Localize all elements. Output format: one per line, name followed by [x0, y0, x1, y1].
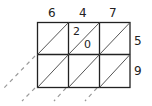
right-digit-1: 5: [134, 35, 142, 47]
lattice-grid: [0, 0, 152, 106]
top-digit-3: 7: [109, 7, 117, 19]
top-digit-2: 4: [79, 7, 87, 19]
right-digit-2: 9: [134, 65, 142, 77]
cell-tens-digit: 2: [73, 26, 80, 37]
cell-ones-digit: 0: [84, 39, 91, 50]
dashed-diagonals: [2, 56, 97, 101]
top-digit-1: 6: [48, 7, 56, 19]
